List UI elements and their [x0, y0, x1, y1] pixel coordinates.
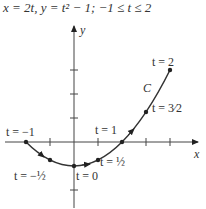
curve-label: C — [143, 81, 152, 95]
label-t-3-2: t = 3⁄2 — [152, 101, 182, 115]
label-t-0: t = 0 — [76, 169, 98, 183]
plot: x y C t = −1 t = −½ t = 0 t = ½ t = 1 t … — [0, 0, 206, 209]
label-t-2: t = 2 — [152, 55, 174, 69]
label-t-half: t = ½ — [100, 155, 125, 169]
x-axis-label: x — [193, 147, 200, 161]
y-axis-label: y — [79, 23, 86, 37]
label-t-1: t = 1 — [95, 123, 117, 137]
label-t-neg-half: t = −½ — [14, 169, 46, 183]
direction-arrow-icon — [128, 129, 134, 135]
parametric-curve-figure: x = 2t, y = t² − 1; −1 ≤ t ≤ 2 — [0, 0, 206, 209]
direction-arrow-icon — [82, 164, 90, 165]
direction-arrow-icon — [38, 152, 44, 157]
label-t-neg1: t = −1 — [6, 125, 35, 139]
